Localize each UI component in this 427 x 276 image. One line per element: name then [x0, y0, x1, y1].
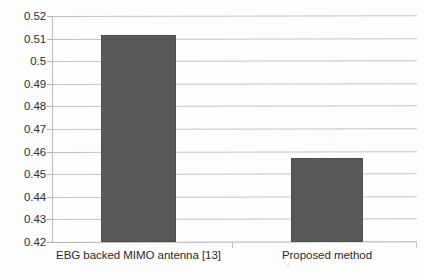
- bar: [101, 35, 176, 242]
- y-tick-label: 0.48: [0, 100, 46, 112]
- gridline: [52, 15, 417, 17]
- y-tick-mark: [47, 84, 52, 85]
- y-tick-label: 0.5: [0, 55, 46, 67]
- y-tick-mark: [47, 16, 52, 17]
- y-tick-label: 0.44: [0, 191, 46, 203]
- scan-speck: [330, 143, 332, 145]
- bar-chart: 0.520.510.50.490.480.470.460.450.440.430…: [0, 0, 427, 276]
- y-tick-mark: [47, 39, 52, 40]
- y-tick-mark: [47, 197, 52, 198]
- y-tick-mark: [47, 61, 52, 62]
- y-tick-mark: [47, 106, 52, 107]
- x-tick-label: EBG backed MIMO antenna [13]: [29, 249, 249, 261]
- y-tick-label: 0.45: [0, 168, 46, 180]
- plot-area: [52, 16, 417, 242]
- y-tick-label: 0.42: [0, 236, 46, 248]
- x-axis: EBG backed MIMO antenna [13]Proposed met…: [52, 249, 417, 269]
- y-tick-label: 0.46: [0, 146, 46, 158]
- y-tick-label: 0.49: [0, 78, 46, 90]
- y-axis: 0.520.510.50.490.480.470.460.450.440.430…: [0, 0, 46, 276]
- bar: [291, 158, 363, 242]
- category-end-tick: [416, 242, 417, 248]
- y-tick-mark: [47, 219, 52, 220]
- scan-speck: [286, 264, 290, 267]
- y-tick-label: 0.52: [0, 10, 46, 22]
- scan-speck: [197, 128, 200, 130]
- y-tick-label: 0.43: [0, 213, 46, 225]
- y-tick-mark: [47, 174, 52, 175]
- x-tick-label: Proposed method: [217, 249, 427, 261]
- y-tick-mark: [47, 129, 52, 130]
- category-divider-tick: [232, 242, 233, 248]
- y-tick-mark: [47, 152, 52, 153]
- y-tick-label: 0.51: [0, 33, 46, 45]
- y-tick-mark: [47, 242, 52, 243]
- y-tick-label: 0.47: [0, 123, 46, 135]
